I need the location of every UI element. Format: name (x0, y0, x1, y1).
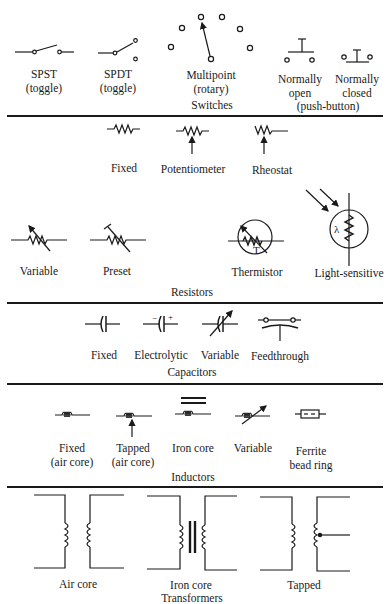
resistors-section-title: Resistors (171, 285, 213, 299)
lambda-label: λ (334, 223, 340, 235)
fixed-inductor-label: Fixed (air core) (51, 441, 93, 469)
variable-resistor-label: Variable (20, 264, 58, 278)
ferrite-bead-sub: bead ring (289, 458, 332, 472)
spdt-switch-icon (98, 39, 137, 61)
tapped-transformer-label: Tapped (287, 578, 321, 592)
fixed-resistor-icon (107, 125, 140, 133)
push-button-no-icon (285, 39, 314, 62)
tapped-transformer-icon (260, 497, 350, 571)
thermistor-t-label: T (253, 244, 260, 256)
fixed-inductor-icon (55, 412, 90, 417)
fixed-capacitor-label: Fixed (91, 348, 117, 362)
spst-sub: (toggle) (26, 81, 62, 95)
variable-resistor-icon (11, 226, 67, 251)
light-sensitive-resistor-icon: λ (306, 189, 368, 266)
ferrite-bead-label: Ferrite bead ring (289, 444, 332, 472)
rheostat-label: Rheostat (252, 163, 292, 177)
thermistor-icon: T (228, 220, 284, 256)
ferrite-bead-icon (295, 410, 326, 418)
spdt-sub: (toggle) (100, 81, 136, 95)
variable-inductor-icon (235, 406, 270, 424)
divider-capacitors (7, 383, 383, 385)
component-symbol-chart: T λ (0, 0, 387, 604)
divider-inductors (7, 486, 383, 488)
tapped-inductor-sub: (air core) (112, 455, 154, 469)
normally-closed-label: Normally closed (335, 72, 379, 100)
multipoint-name: Multipoint (186, 68, 235, 82)
feedthrough-capacitor-icon (258, 318, 301, 341)
normally-closed-sub: closed (335, 86, 379, 100)
iron-core-inductor-icon (175, 398, 211, 416)
potentiometer-icon (176, 127, 209, 154)
preset-resistor-icon (90, 224, 146, 252)
air-core-transformer-icon (34, 495, 124, 568)
push-button-group-label: (push-button) (297, 99, 360, 113)
spst-switch-icon (15, 45, 74, 54)
iron-core-inductor-label: Iron core (172, 441, 214, 455)
tapped-inductor-label: Tapped (air core) (112, 441, 154, 469)
push-button-nc-icon (342, 50, 372, 62)
divider-resistors (7, 302, 383, 304)
normally-open-name: Normally (278, 72, 322, 86)
normally-closed-name: Normally (335, 72, 379, 86)
rheostat-icon (255, 126, 288, 154)
normally-open-label: Normally open (278, 72, 322, 100)
variable-inductor-label: Variable (234, 441, 272, 455)
variable-capacitor-label: Variable (201, 348, 239, 362)
fixed-resistor-label: Fixed (111, 161, 137, 175)
iron-core-transformer-label: Iron core (170, 578, 212, 592)
potentiometer-label: Potentiometer (161, 162, 226, 176)
inductors-section-title: Inductors (171, 470, 214, 484)
spdt-name: SPDT (100, 67, 136, 81)
switches-section-title: Switches (191, 98, 233, 112)
light-sensitive-label: Light-sensitive (315, 266, 384, 280)
variable-capacitor-icon (202, 311, 238, 336)
thermistor-label: Thermistor (231, 265, 282, 279)
capacitors-section-title: Capacitors (167, 365, 216, 379)
ferrite-bead-name: Ferrite (289, 444, 332, 458)
tapped-inductor-name: Tapped (112, 441, 154, 455)
transformers-section-title: Transformers (161, 591, 223, 604)
fixed-capacitor-icon (85, 316, 120, 332)
spst-name: SPST (26, 67, 62, 81)
minus-sign: − (152, 313, 157, 323)
fixed-inductor-sub: (air core) (51, 455, 93, 469)
rotary-switch-icon (168, 14, 252, 61)
plus-sign: + (168, 312, 173, 322)
normally-open-sub: open (278, 86, 322, 100)
tapped-inductor-icon (116, 413, 152, 437)
spdt-label: SPDT (toggle) (100, 67, 136, 95)
divider-switches (7, 115, 383, 117)
iron-core-transformer-icon (147, 496, 237, 570)
multipoint-label: Multipoint (rotary) (186, 68, 235, 96)
preset-resistor-label: Preset (103, 264, 131, 278)
multipoint-sub: (rotary) (186, 82, 235, 96)
spst-label: SPST (toggle) (26, 67, 62, 95)
air-core-transformer-label: Air core (59, 577, 97, 591)
electrolytic-capacitor-label: Electrolytic (134, 348, 188, 362)
fixed-inductor-name: Fixed (51, 441, 93, 455)
feedthrough-capacitor-label: Feedthrough (251, 349, 309, 363)
